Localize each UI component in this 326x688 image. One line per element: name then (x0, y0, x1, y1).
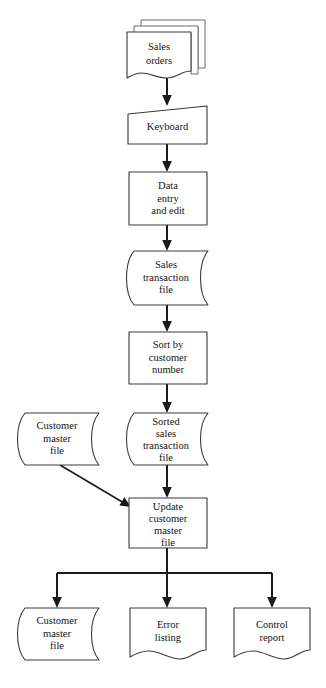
node-label-update-line-1: customer (149, 513, 188, 524)
node-sorted-sales-transaction-file[interactable]: Sorted sales transaction file (127, 413, 209, 465)
node-label-sales-orders-line-1: orders (146, 55, 172, 66)
node-label-data-entry-line-1: entry (157, 193, 179, 204)
node-label-sorted-line-3: file (159, 452, 173, 463)
connector-update-to-control-report (267, 573, 277, 608)
node-label-sales-orders-line-0: Sales (148, 41, 170, 52)
connector-sales-transaction-file-to-sort (162, 305, 172, 332)
node-label-customer-master-file-output-line-0: Customer (37, 615, 78, 626)
node-customer-master-file-output[interactable]: Customer master file (18, 608, 100, 660)
node-sales-transaction-file[interactable]: Sales transaction file (127, 251, 209, 305)
node-label-sales-transaction-file-line-0: Sales (155, 259, 177, 270)
node-label-control-report-line-1: report (259, 632, 284, 643)
connector-data-entry-to-sales-transaction-file (162, 225, 172, 251)
node-label-error-listing-line-1: listing (155, 632, 182, 643)
flowchart-canvas: Sales orders Keyboard Data entry and edi… (0, 0, 326, 688)
node-label-error-listing-line-0: Error (157, 619, 180, 630)
node-sales-orders[interactable]: Sales orders (127, 20, 205, 78)
node-label-update-line-2: master (154, 525, 182, 536)
node-label-data-entry-line-2: and edit (151, 205, 185, 216)
connector-sorted-sales-transaction-file-to-update (162, 465, 172, 498)
node-label-sales-transaction-file-line-1: transaction (143, 272, 190, 283)
node-label-sort-line-1: customer (149, 352, 188, 363)
node-label-customer-master-file-output-line-2: file (50, 640, 64, 651)
node-label-customer-master-file-output-line-1: master (43, 628, 71, 639)
connector-update-to-customer-master-file-output (52, 573, 62, 608)
node-label-sort-line-2: number (152, 364, 185, 375)
node-error-listing[interactable]: Error listing (130, 608, 206, 659)
connector-sales-orders-to-keyboard (162, 78, 172, 106)
node-label-data-entry-line-0: Data (158, 180, 178, 191)
node-label-control-report-line-0: Control (256, 619, 288, 630)
connector-update-branch-trunk (57, 548, 272, 573)
connector-sort-to-sorted-sales-transaction-file (162, 384, 172, 413)
node-label-sort-line-0: Sort by (153, 339, 184, 350)
node-label-sales-transaction-file-line-2: file (159, 284, 173, 295)
node-sort-by-customer-number[interactable]: Sort by customer number (129, 332, 207, 384)
flowchart-svg: Sales orders Keyboard Data entry and edi… (0, 0, 326, 688)
connector-keyboard-to-data-entry (162, 144, 172, 172)
node-label-customer-master-file-input-line-2: file (50, 445, 64, 456)
node-label-sorted-line-0: Sorted (152, 416, 180, 427)
connector-update-to-error-listing (162, 573, 172, 608)
node-update-customer-master-file[interactable]: Update customer master file (129, 498, 207, 548)
node-label-keyboard: Keyboard (147, 121, 189, 132)
node-label-update-line-3: file (161, 537, 175, 548)
node-keyboard[interactable]: Keyboard (128, 106, 207, 144)
node-label-customer-master-file-input-line-0: Customer (37, 420, 78, 431)
node-data-entry-and-edit[interactable]: Data entry and edit (129, 172, 207, 225)
connector-customer-master-file-to-update (60, 465, 131, 507)
node-label-update-line-0: Update (153, 501, 184, 512)
node-label-customer-master-file-input-line-1: master (43, 433, 71, 444)
node-label-sorted-line-2: transaction (143, 440, 190, 451)
node-label-sorted-line-1: sales (156, 428, 176, 439)
node-customer-master-file-input[interactable]: Customer master file (18, 413, 100, 465)
node-control-report[interactable]: Control report (234, 608, 310, 659)
